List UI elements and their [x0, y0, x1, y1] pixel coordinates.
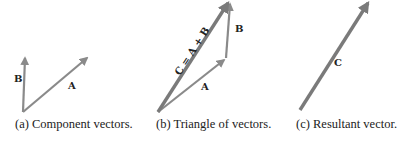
vector-b-arrow: [23, 58, 25, 112]
vector-b-label: B: [235, 23, 243, 34]
vector-a-arrow: [23, 58, 87, 112]
panel-a-component-vectors: B A: [14, 58, 87, 112]
caption-a: (a) Component vectors.: [15, 117, 133, 132]
vector-b-label: B: [14, 73, 22, 84]
vector-b-arrow: [226, 4, 230, 58]
vector-c-label: C: [334, 57, 342, 68]
vector-a-label: A: [67, 80, 76, 91]
panel-b-triangle-of-vectors: A B C = A + B: [158, 3, 243, 112]
vector-a-arrow: [158, 60, 224, 112]
panel-c-resultant-vector: C: [300, 3, 368, 110]
vector-c-equation-label: C = A + B: [172, 25, 211, 77]
vector-a-label: A: [200, 81, 209, 92]
caption-c: (c) Resultant vector.: [296, 117, 397, 132]
caption-b: (b) Triangle of vectors.: [156, 117, 271, 132]
